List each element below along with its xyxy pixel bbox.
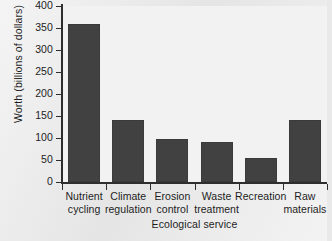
y-tick: 0 (0, 182, 62, 183)
y-tick-label: 250 (35, 65, 53, 77)
y-tick: 250 (0, 72, 62, 73)
bar (201, 142, 233, 182)
y-tick: 300 (0, 50, 62, 51)
y-tick-label: 50 (41, 153, 53, 165)
bar (112, 120, 144, 182)
x-category-label-line1: Climate (110, 190, 146, 202)
bar (156, 139, 188, 182)
x-category-label-line1: Waste (202, 190, 232, 202)
y-tick-label: 200 (35, 87, 53, 99)
y-tick-label: 400 (35, 0, 53, 11)
x-category-label-line1: Raw (294, 190, 315, 202)
y-tick-label: 300 (35, 43, 53, 55)
y-tick: 50 (0, 160, 62, 161)
y-tick-label: 100 (35, 131, 53, 143)
y-tick-mark (56, 182, 62, 183)
x-category-label-line1: Erosion (154, 190, 190, 202)
x-axis-title: Ecological service (62, 218, 327, 230)
x-category-label-line2: materials (277, 203, 332, 216)
y-tick-label: 150 (35, 109, 53, 121)
y-tick: 200 (0, 94, 62, 95)
y-axis-title: Worth (billions of dollars) (12, 0, 24, 144)
x-category-label-line1: Nutrient (65, 190, 102, 202)
bar (245, 158, 277, 182)
x-category-label-line2: treatment (189, 203, 245, 216)
y-tick: 150 (0, 116, 62, 117)
x-category-label: Rawmaterials (277, 190, 332, 215)
bars-layer (62, 6, 327, 182)
x-axis-category-labels: NutrientcyclingClimateregulationErosionc… (62, 190, 327, 218)
y-tick: 100 (0, 138, 62, 139)
y-tick-label: 0 (47, 175, 53, 187)
y-tick-label: 350 (35, 21, 53, 33)
y-tick: 400 (0, 6, 62, 7)
bar (289, 120, 321, 182)
bar (68, 24, 100, 182)
y-tick: 350 (0, 28, 62, 29)
